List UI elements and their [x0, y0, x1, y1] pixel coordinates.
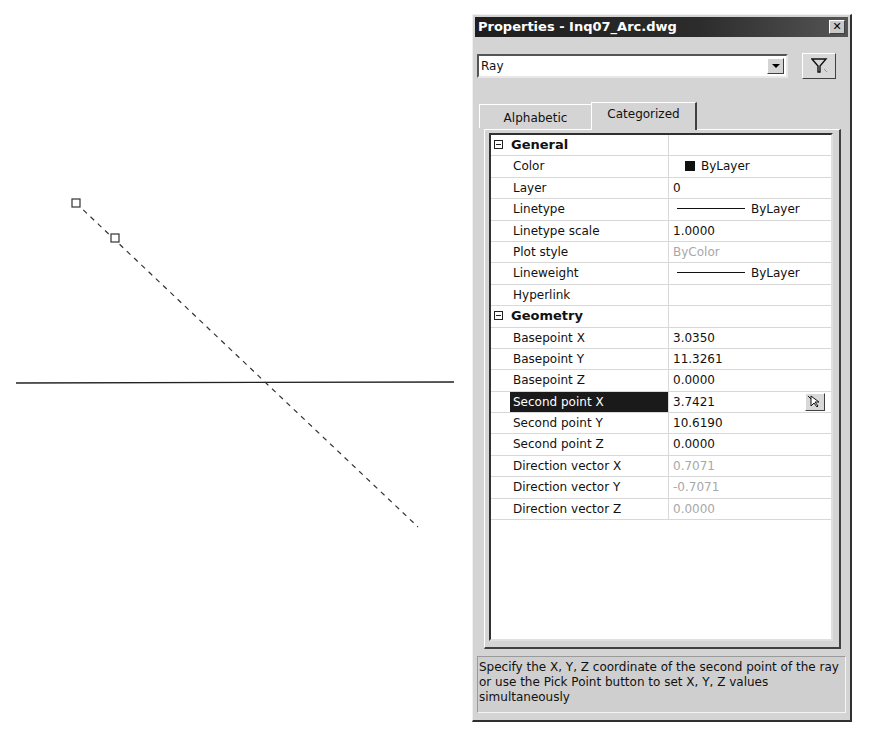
close-button[interactable]: ✕	[829, 20, 845, 34]
property-value[interactable]	[673, 285, 831, 305]
property-row-basepoint-z[interactable]: Basepoint Z0.0000	[491, 370, 831, 391]
row-gutter	[491, 178, 510, 198]
description-panel: Specify the X, Y, Z coordinate of the se…	[477, 656, 846, 713]
property-value-text: 0.0000	[673, 437, 715, 451]
grip-handle[interactable]	[72, 199, 80, 207]
object-type-value: Ray	[481, 59, 504, 73]
property-row-second-point-y[interactable]: Second point Y10.6190	[491, 413, 831, 434]
property-label: Color	[510, 156, 669, 176]
property-grid-frame: GeneralColorByLayerLayer0LinetypeByLayer…	[484, 129, 841, 649]
property-value[interactable]: 0.0000	[673, 370, 831, 390]
property-row-linetype-scale[interactable]: Linetype scale1.0000	[491, 221, 831, 242]
properties-palette: Properties - Inq07_Arc.dwg ✕ Ray Alphabe…	[472, 14, 852, 722]
property-row-lineweight[interactable]: LineweightByLayer	[491, 263, 831, 284]
chevron-down-icon[interactable]	[767, 58, 784, 74]
property-row-layer[interactable]: Layer0	[491, 178, 831, 199]
drawing-canvas[interactable]	[0, 0, 468, 747]
property-label: Direction vector Z	[510, 499, 669, 519]
funnel-icon	[811, 58, 829, 74]
property-value[interactable]: 10.6190	[673, 413, 831, 433]
title-bar[interactable]: Properties - Inq07_Arc.dwg ✕	[475, 17, 848, 37]
property-value-text: 10.6190	[673, 416, 723, 430]
property-label: Second point Y	[510, 413, 669, 433]
property-value-text: 3.0350	[673, 331, 715, 345]
object-type-select[interactable]: Ray	[477, 54, 788, 78]
property-label: Linetype	[510, 199, 669, 219]
row-gutter	[491, 434, 510, 454]
property-label: Direction vector Y	[510, 477, 669, 497]
property-row-second-point-z[interactable]: Second point Z0.0000	[491, 434, 831, 455]
property-value: 0.7071	[673, 456, 831, 476]
property-label: Second point Z	[510, 434, 669, 454]
property-value: -0.7071	[673, 477, 831, 497]
quick-select-button[interactable]	[802, 53, 836, 79]
property-value[interactable]: ByLayer	[673, 199, 831, 219]
property-value-text: 0.0000	[673, 373, 715, 387]
property-value[interactable]: 3.7421	[673, 392, 831, 412]
property-row-second-point-x[interactable]: Second point X3.7421	[491, 392, 831, 413]
property-row-direction-vector-x[interactable]: Direction vector X0.7071	[491, 456, 831, 477]
grip-handle[interactable]	[111, 234, 119, 242]
row-gutter	[491, 263, 510, 283]
row-gutter	[491, 370, 510, 390]
category-geometry[interactable]: Geometry	[491, 306, 831, 327]
property-row-basepoint-y[interactable]: Basepoint Y11.3261	[491, 349, 831, 370]
row-gutter	[491, 242, 510, 262]
category-label: General	[491, 135, 669, 155]
property-value-text: 3.7421	[673, 395, 715, 409]
row-gutter	[491, 221, 510, 241]
row-gutter	[491, 199, 510, 219]
property-label: Linetype scale	[510, 221, 669, 241]
property-row-color[interactable]: ColorByLayer	[491, 156, 831, 177]
ray-entity-selected[interactable]	[76, 203, 418, 527]
property-value[interactable]: 3.0350	[673, 328, 831, 348]
line-sample-icon	[677, 272, 745, 273]
property-label: Second point X	[510, 392, 669, 412]
property-value-text: 0	[673, 181, 681, 195]
property-value: 0.0000	[673, 499, 831, 519]
property-label: Layer	[510, 178, 669, 198]
row-gutter	[491, 456, 510, 476]
property-row-direction-vector-z[interactable]: Direction vector Z0.0000	[491, 499, 831, 520]
property-label: Hyperlink	[510, 285, 669, 305]
row-gutter	[491, 392, 510, 412]
property-label: Basepoint Y	[510, 349, 669, 369]
property-label: Lineweight	[510, 263, 669, 283]
row-gutter	[491, 413, 510, 433]
row-gutter	[491, 328, 510, 348]
description-text: Specify the X, Y, Z coordinate of the se…	[479, 660, 839, 704]
pick-point-icon	[806, 394, 822, 408]
pick-point-button[interactable]	[805, 393, 825, 411]
property-row-linetype[interactable]: LinetypeByLayer	[491, 199, 831, 220]
property-value-text: -0.7071	[673, 480, 719, 494]
property-row-hyperlink[interactable]: Hyperlink	[491, 285, 831, 306]
property-value-text: ByLayer	[751, 202, 800, 216]
property-label: Direction vector X	[510, 456, 669, 476]
property-value[interactable]: 0	[673, 178, 831, 198]
property-row-basepoint-x[interactable]: Basepoint X3.0350	[491, 328, 831, 349]
property-value-text: 0.7071	[673, 459, 715, 473]
property-value[interactable]: ByLayer	[673, 263, 831, 283]
property-row-plot-style[interactable]: Plot styleByColor	[491, 242, 831, 263]
property-value-text: 1.0000	[673, 224, 715, 238]
property-value-text: 11.3261	[673, 352, 723, 366]
property-value: ByColor	[673, 242, 831, 262]
property-value[interactable]: ByLayer	[673, 156, 831, 176]
property-grid[interactable]: GeneralColorByLayerLayer0LinetypeByLayer…	[489, 133, 833, 641]
row-gutter	[491, 477, 510, 497]
category-value	[673, 306, 831, 326]
row-gutter	[491, 285, 510, 305]
horizontal-line-entity[interactable]	[16, 382, 454, 383]
drawing-viewport[interactable]	[0, 0, 468, 747]
color-swatch	[685, 161, 695, 171]
tab-alphabetic[interactable]: Alphabetic	[479, 104, 591, 128]
property-row-direction-vector-y[interactable]: Direction vector Y-0.7071	[491, 477, 831, 498]
property-value[interactable]: 11.3261	[673, 349, 831, 369]
tab-categorized[interactable]: Categorized	[591, 102, 697, 130]
row-gutter	[491, 156, 510, 176]
property-value[interactable]: 1.0000	[673, 221, 831, 241]
property-value[interactable]: 0.0000	[673, 434, 831, 454]
category-general[interactable]: General	[491, 135, 831, 156]
property-value-text: ByColor	[673, 245, 720, 259]
category-label: Geometry	[491, 306, 669, 326]
